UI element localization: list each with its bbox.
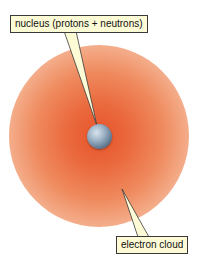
electron-cloud-label: electron cloud: [116, 236, 188, 254]
nucleus: [87, 124, 112, 149]
cloud-callout-pointer: [122, 189, 149, 237]
nucleus-callout-pointer: [64, 31, 97, 126]
nucleus-label: nucleus (protons + neutrons): [10, 15, 148, 33]
